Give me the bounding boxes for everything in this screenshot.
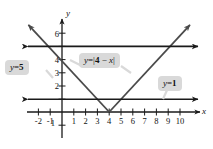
callout-mid-minus: −: [99, 55, 109, 65]
x-axis: [27, 109, 200, 116]
callout-y-equals-1: y=1: [158, 76, 182, 91]
y-tick-label-3: 3: [48, 68, 59, 78]
x-axis-name: x: [202, 106, 206, 116]
callout-y5-value: 5: [19, 62, 24, 72]
y-axis: [59, 19, 66, 138]
callout-y-equals-5: y=5: [5, 60, 29, 75]
y-axis-name: y: [66, 8, 70, 18]
y-tick-label-4: 4: [48, 55, 59, 65]
x-tick-label-10: 10: [172, 116, 188, 126]
y-tick-label-6: 6: [48, 29, 59, 39]
y-tick-label-2: 2: [48, 81, 59, 91]
abs-bar-close: |: [113, 55, 115, 65]
callout-y1-value: 1: [172, 78, 177, 88]
callout-abs-value-equation: y=|4 − x|: [79, 53, 120, 68]
y-tick-label-neg1: 1: [44, 118, 55, 128]
plot-svg: [0, 0, 213, 149]
graph-figure: y x -2 -1 1 2 3 4 5 6 7 8 9 10 6 4 3 2 1…: [0, 0, 213, 149]
